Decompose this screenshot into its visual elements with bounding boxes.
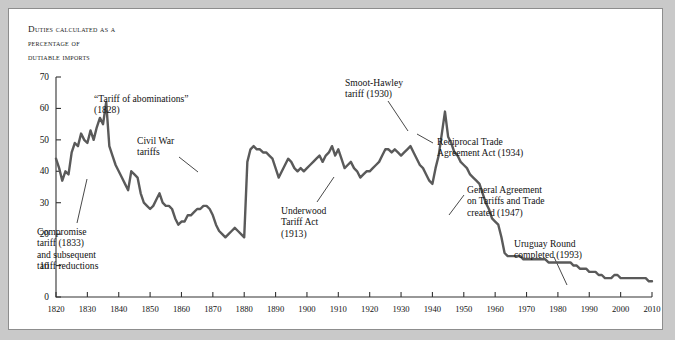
- x-tick-label-2000: 2000: [612, 304, 629, 314]
- leader-line-civil-war: [179, 157, 198, 172]
- x-tick-label-1920: 1920: [361, 304, 378, 314]
- leader-line-compromise: [77, 179, 87, 223]
- tariff-line-chart: [9, 9, 664, 331]
- x-tick-label-1890: 1890: [267, 304, 284, 314]
- chart-figure: Duties calculated as a percentage of dut…: [8, 8, 663, 330]
- x-tick-label-1850: 1850: [142, 304, 159, 314]
- leader-line-reciprocal: [417, 134, 433, 143]
- leader-line-gatt: [449, 195, 464, 215]
- y-tick-label-0: 0: [25, 292, 49, 302]
- x-tick-label-1970: 1970: [518, 304, 535, 314]
- annotation-gatt-created: General Agreement on Tariffs and Trade c…: [467, 184, 545, 218]
- x-tick-label-1860: 1860: [173, 304, 190, 314]
- x-tick-label-1940: 1940: [424, 304, 441, 314]
- leader-line-smoot-hawley: [388, 101, 408, 131]
- x-tick-label-2010: 2010: [643, 304, 660, 314]
- annotation-tariff-of-abominations: “Tariff of abominations” (1828): [94, 93, 189, 116]
- x-tick-label-1870: 1870: [204, 304, 221, 314]
- x-tick-label-1880: 1880: [236, 304, 253, 314]
- x-tick-label-1900: 1900: [298, 304, 315, 314]
- x-tick-label-1840: 1840: [110, 304, 127, 314]
- annotation-underwood-tariff-act: Underwood Tariff Act (1913): [281, 205, 326, 239]
- y-tick-label-30: 30: [25, 198, 49, 208]
- x-tick-label-1930: 1930: [392, 304, 409, 314]
- x-tick-label-1820: 1820: [47, 304, 64, 314]
- annotation-smoot-hawley-tariff: Smoot-Hawley tariff (1930): [345, 77, 403, 100]
- annotation-compromise-tariff: Compromise tariff (1833) and subsequent …: [37, 226, 98, 272]
- y-tick-label-60: 60: [25, 103, 49, 113]
- x-tick-label-1830: 1830: [79, 304, 96, 314]
- x-tick-label-1990: 1990: [581, 304, 598, 314]
- annotation-civil-war-tariffs: Civil War tariffs: [137, 135, 174, 158]
- annotation-uruguay-round: Uruguay Round completed (1993): [514, 238, 582, 261]
- y-tick-label-50: 50: [25, 135, 49, 145]
- y-tick-label-70: 70: [25, 72, 49, 82]
- x-tick-label-1910: 1910: [330, 304, 347, 314]
- x-axis-ticks: [56, 292, 652, 297]
- annotation-reciprocal-trade-act: Reciprocal Trade Agreement Act (1934): [437, 136, 523, 159]
- x-tick-label-1950: 1950: [455, 304, 472, 314]
- x-tick-label-1980: 1980: [549, 304, 566, 314]
- leader-line-underwood: [317, 177, 334, 202]
- leader-line-uruguay: [554, 257, 567, 285]
- x-tick-label-1960: 1960: [487, 304, 504, 314]
- y-tick-label-40: 40: [25, 166, 49, 176]
